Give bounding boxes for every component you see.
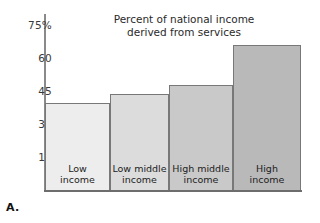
- bar-label-low-income: Low income: [60, 163, 95, 191]
- bar-label-line-2: income: [172, 174, 229, 185]
- bar-label-high-income: High income: [250, 163, 285, 191]
- bar-label-line-1: Low middle: [112, 163, 166, 174]
- bar-label-high-middle-income: High middle income: [172, 163, 229, 191]
- panel-label: A.: [6, 201, 20, 214]
- bar-label-line-2: income: [60, 174, 95, 185]
- bar-label-low-middle-income: Low middle income: [112, 163, 166, 191]
- bar-series: Low income Low middle income High middle…: [45, 14, 301, 191]
- bar-label-line-2: income: [250, 174, 285, 185]
- bar-label-line-1: High: [250, 163, 285, 174]
- bar-high-income: High income: [233, 45, 301, 191]
- bar-low-middle-income: Low middle income: [110, 94, 169, 191]
- bar-label-line-1: Low: [60, 163, 95, 174]
- figure-panel-a: Percent of national income derived from …: [0, 0, 320, 223]
- x-axis-line: [44, 190, 302, 192]
- bar-high-middle-income: High middle income: [169, 85, 233, 191]
- bar-label-line-2: income: [112, 174, 166, 185]
- bar-label-line-1: High middle: [172, 163, 229, 174]
- bar-low-income: Low income: [45, 103, 110, 192]
